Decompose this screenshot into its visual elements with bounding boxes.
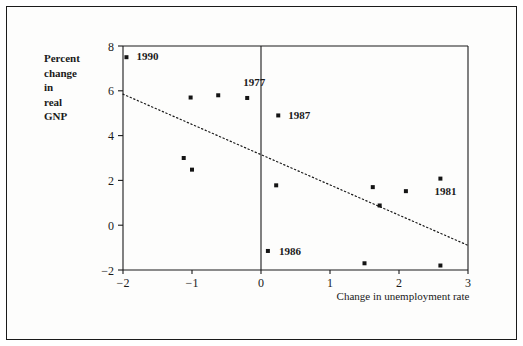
- y-axis-title-line: Percent: [44, 52, 80, 64]
- x-tick-label: −2: [117, 276, 130, 290]
- y-tick-label: 8: [108, 40, 114, 54]
- data-point: [404, 189, 408, 193]
- y-tick-label: 6: [108, 84, 114, 98]
- x-tick-label: −1: [186, 276, 199, 290]
- data-point: [189, 96, 193, 100]
- data-point-label: 1987: [288, 109, 311, 121]
- x-tick-label: 2: [396, 276, 402, 290]
- y-axis-title-line: real: [44, 96, 62, 108]
- data-point: [266, 249, 270, 253]
- data-point: [245, 96, 249, 100]
- x-axis-title: Change in unemployment rate: [337, 290, 470, 302]
- figure-container: −202468−2−10123 19901977198719811986 Per…: [0, 0, 523, 346]
- y-axis-title-line: GNP: [44, 110, 68, 122]
- y-tick-label: −2: [101, 264, 114, 278]
- tick-group: [118, 46, 468, 274]
- scatter-plot: −202468−2−10123 19901977198719811986 Per…: [0, 0, 523, 346]
- data-point: [274, 183, 278, 187]
- data-point-label: 1990: [136, 50, 159, 62]
- data-point-label: 1981: [434, 185, 456, 197]
- y-axis-title-line: in: [44, 81, 53, 93]
- x-tick-label: 1: [327, 276, 333, 290]
- data-point: [124, 55, 128, 59]
- data-point: [182, 156, 186, 160]
- data-point-label: 1986: [279, 245, 302, 257]
- y-tick-label: 4: [108, 129, 114, 143]
- y-tick-label: 0: [108, 219, 114, 233]
- data-point: [378, 203, 382, 207]
- x-axis-title-group: Change in unemployment rate: [337, 290, 470, 302]
- data-points-group: [124, 55, 442, 267]
- data-point: [216, 93, 220, 97]
- data-point: [371, 185, 375, 189]
- data-point: [363, 261, 367, 265]
- point-label-group: 19901977198719811986: [136, 50, 456, 257]
- y-axis-title-line: change: [44, 67, 77, 79]
- data-point-label: 1977: [243, 76, 266, 88]
- axes-group: [123, 46, 468, 270]
- y-tick-label: 2: [108, 174, 114, 188]
- data-point: [438, 177, 442, 181]
- y-axis-title-group: PercentchangeinrealGNP: [44, 52, 80, 122]
- x-tick-label: 0: [258, 276, 264, 290]
- x-tick-label: 3: [465, 276, 471, 290]
- data-point: [276, 113, 280, 117]
- data-point: [438, 264, 442, 268]
- data-point: [190, 168, 194, 172]
